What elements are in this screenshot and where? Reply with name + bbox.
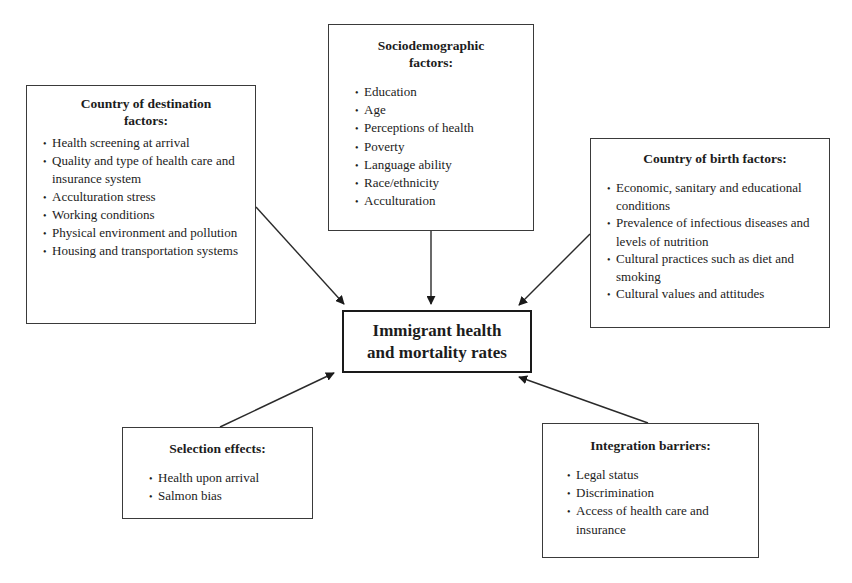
title-line: Country of destination	[81, 96, 212, 111]
destination-factors-list: Health screening at arrival Quality and …	[43, 134, 249, 260]
list-item: Housing and transportation systems	[43, 242, 249, 260]
list-item: Perceptions of health	[355, 119, 527, 137]
destination-factors-title: Country of destination factors:	[43, 95, 249, 129]
list-item: Health screening at arrival	[43, 134, 249, 152]
list-item: Age	[355, 101, 527, 119]
list-item: Legal status	[567, 466, 752, 484]
integration-barriers-title: Integration barriers:	[549, 437, 752, 454]
list-item: Quality and type of health care and insu…	[43, 152, 249, 187]
list-item: Economic, sanitary and educational condi…	[607, 179, 823, 214]
list-item: Cultural values and attitudes	[607, 285, 823, 303]
list-item: Salmon bias	[149, 487, 306, 505]
list-item: Poverty	[355, 138, 527, 156]
title-line: factors:	[124, 113, 168, 128]
list-item: Prevalence of infectious diseases and le…	[607, 214, 823, 249]
selection-effects-title: Selection effects:	[129, 440, 306, 457]
list-item: Education	[355, 83, 527, 101]
title-line: Immigrant health	[367, 320, 507, 342]
list-item: Physical environment and pollution	[43, 224, 249, 242]
selection-effects-box: Selection effects: Health upon arrival S…	[122, 427, 313, 519]
destination-factors-box: Country of destination factors: Health s…	[26, 85, 256, 324]
title-line: factors:	[409, 55, 453, 70]
sociodemographic-factors-box: Sociodemographic factors: Education Age …	[328, 24, 534, 231]
integration-barriers-box: Integration barriers: Legal status Discr…	[542, 423, 759, 558]
list-item: Discrimination	[567, 484, 752, 502]
integration-barriers-list: Legal status Discrimination Access of he…	[567, 466, 752, 538]
list-item: Acculturation stress	[43, 188, 249, 206]
title-line: Sociodemographic	[378, 38, 485, 53]
birth-country-factors-title: Country of birth factors:	[607, 150, 823, 167]
list-item: Language ability	[355, 156, 527, 174]
arrow-birth-to-center	[519, 234, 590, 305]
arrow-integration-to-center	[519, 377, 648, 423]
title-line: and mortality rates	[367, 342, 507, 364]
sociodemographic-factors-list: Education Age Perceptions of health Pove…	[355, 83, 527, 210]
birth-country-factors-box: Country of birth factors: Economic, sani…	[590, 138, 830, 328]
birth-country-factors-list: Economic, sanitary and educational condi…	[607, 179, 823, 303]
list-item: Access of health care and insurance	[567, 502, 752, 537]
central-outcome-box: Immigrant health and mortality rates	[342, 310, 532, 373]
selection-effects-list: Health upon arrival Salmon bias	[149, 469, 306, 505]
arrow-selection-to-center	[220, 373, 334, 427]
list-item: Race/ethnicity	[355, 174, 527, 192]
list-item: Acculturation	[355, 192, 527, 210]
list-item: Health upon arrival	[149, 469, 306, 487]
sociodemographic-factors-title: Sociodemographic factors:	[335, 37, 527, 71]
list-item: Cultural practices such as diet and smok…	[607, 250, 823, 285]
list-item: Working conditions	[43, 206, 249, 224]
central-outcome-title: Immigrant health and mortality rates	[367, 320, 507, 364]
